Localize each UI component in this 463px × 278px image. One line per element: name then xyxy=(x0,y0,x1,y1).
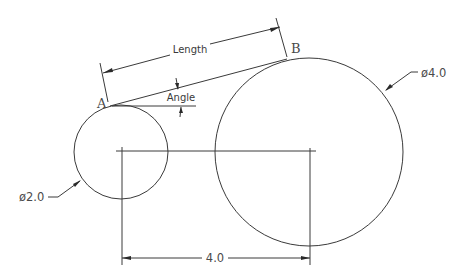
small-diameter-label: ø2.0 xyxy=(19,190,44,204)
length-extension-line-b xyxy=(276,18,287,57)
point-b-label: B xyxy=(291,41,301,56)
angle-arrow-lower-icon xyxy=(179,107,183,113)
length-arrow-left-icon xyxy=(103,68,113,73)
angle-label: Angle xyxy=(167,92,195,103)
technical-drawing: Length Angle A B 4.0 ø2.0 ø4.0 xyxy=(0,0,463,278)
large-diameter-arrow-icon xyxy=(385,84,393,91)
drawing-canvas: Length Angle A B 4.0 ø2.0 ø4.0 xyxy=(0,0,463,278)
point-a-label: A xyxy=(96,96,107,111)
center-distance-arrow-left-icon xyxy=(122,256,131,260)
length-label: Length xyxy=(173,44,208,55)
length-dimension-line-left xyxy=(103,55,170,73)
center-distance-arrow-right-icon xyxy=(301,256,310,260)
tangent-line-ab xyxy=(110,59,287,106)
large-diameter-label: ø4.0 xyxy=(421,66,446,80)
large-circle xyxy=(215,58,403,246)
length-dimension-line-right xyxy=(210,27,280,44)
length-arrow-right-icon xyxy=(270,27,280,32)
small-circle xyxy=(74,105,168,199)
center-distance-label: 4.0 xyxy=(206,251,224,265)
small-diameter-arrow-icon xyxy=(73,180,81,187)
